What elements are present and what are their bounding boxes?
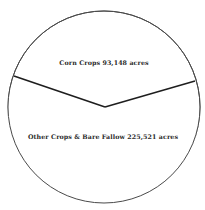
other-crops-label: Other Crops & Bare Fallow 225,521 acres [28,133,178,140]
corn-crops-label: Corn Crops 93,148 acres [59,59,148,66]
pie-chart [0,0,205,210]
